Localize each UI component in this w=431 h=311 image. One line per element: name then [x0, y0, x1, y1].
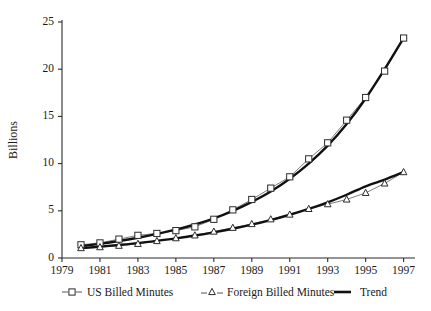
- x-tick-label: 1991: [278, 264, 301, 276]
- us-billed-minutes-marker: [325, 140, 331, 146]
- us-billed-minutes-marker: [230, 207, 236, 213]
- us-billed-minutes-marker: [249, 196, 255, 202]
- x-tick-label: 1995: [354, 264, 377, 276]
- x-tick-label: 1979: [51, 264, 74, 276]
- us-billed-minutes-marker: [306, 156, 312, 162]
- x-tick-label: 1993: [316, 264, 339, 276]
- y-axis-title: Billions: [6, 121, 20, 159]
- us-billed-minutes-marker: [401, 35, 407, 41]
- y-axis-title-label: Billions: [6, 121, 20, 159]
- y-tick-label: 25: [43, 15, 55, 27]
- us-billed-minutes-marker: [173, 228, 179, 234]
- us-billed-minutes-marker: [287, 174, 293, 180]
- x-tick-label: 1997: [392, 264, 415, 276]
- us-billed-minutes-marker: [154, 230, 160, 236]
- us-billed-minutes-marker: [344, 117, 350, 123]
- us-billed-minutes-marker: [363, 94, 369, 100]
- us-billed-minutes-marker: [211, 216, 217, 222]
- x-tick-label: 1989: [240, 264, 263, 276]
- y-tick-label: 15: [43, 109, 55, 121]
- legend-item-label: Foreign Billed Minutes: [227, 286, 335, 299]
- us-billed-minutes-marker: [382, 68, 388, 74]
- x-tick-label: 1983: [126, 264, 149, 276]
- legend-square-marker-icon: [69, 289, 75, 295]
- us-billed-minutes-marker: [268, 185, 274, 191]
- legend-item-label: US Billed Minutes: [87, 286, 174, 298]
- y-tick-label: 5: [48, 203, 54, 215]
- y-tick-label: 10: [43, 156, 55, 168]
- y-tick-label: 0: [48, 251, 54, 263]
- us-billed-minutes-marker: [135, 232, 141, 238]
- chart-figure: 0510152025 19791981198319851987198919911…: [0, 0, 431, 311]
- y-tick-label: 20: [43, 62, 55, 74]
- billed-minutes-line-chart: 0510152025 19791981198319851987198919911…: [0, 0, 431, 311]
- legend-item-label: Trend: [360, 286, 387, 298]
- x-tick-label: 1985: [164, 264, 187, 276]
- x-tick-label: 1987: [202, 264, 225, 276]
- us-billed-minutes-marker: [192, 224, 198, 230]
- x-tick-label: 1981: [88, 264, 111, 276]
